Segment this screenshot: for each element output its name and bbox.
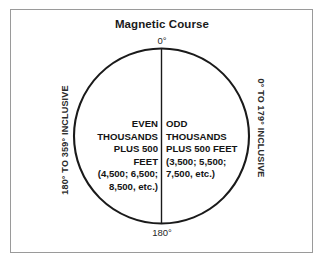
course-range-label-west: 180° TO 359° INCLUSIVE [60, 85, 70, 194]
altitude-rule-west-line1: EVEN [97, 118, 158, 131]
altitude-rule-east-line4: (3,500; 5,500; [166, 156, 237, 169]
altitude-rule-west-line5: (4,500; 6,500; [97, 168, 158, 181]
altitude-rule-east-line5: 7,500, etc.) [166, 168, 237, 181]
altitude-rule-west-line2: THOUSANDS [97, 131, 158, 144]
altitude-rule-east-line2: THOUSANDS [166, 131, 237, 144]
altitude-rule-west-line6: 8,500, etc.) [97, 181, 158, 194]
altitude-rule-east: ODD THOUSANDS PLUS 500 FEET (3,500; 5,50… [166, 118, 237, 181]
altitude-rule-west-line3: PLUS 500 [97, 143, 158, 156]
compass-circle-graphic [0, 0, 324, 262]
heading-label-180: 180° [0, 227, 324, 238]
course-range-label-east: 0° TO 179° INCLUSIVE [256, 78, 266, 177]
altitude-rule-east-line1: ODD [166, 118, 237, 131]
altitude-rule-west-line4: FEET [97, 156, 158, 169]
altitude-rule-west: EVEN THOUSANDS PLUS 500 FEET (4,500; 6,5… [97, 118, 158, 194]
altitude-rule-east-line3: PLUS 500 FEET [166, 143, 237, 156]
magnetic-course-figure: Magnetic Course 0° 180° 180° TO 359° INC… [0, 0, 324, 262]
